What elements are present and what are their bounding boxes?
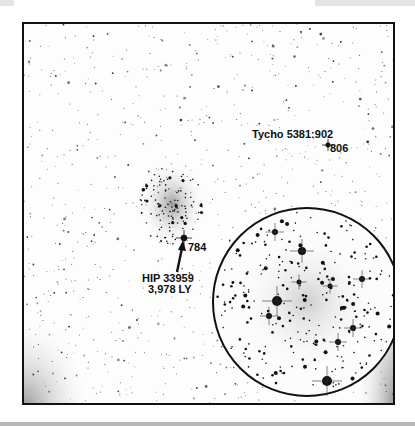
- tycho-magnitude-value: 806: [330, 142, 348, 154]
- page-header-right: [315, 0, 415, 6]
- page-header-left: [0, 0, 14, 6]
- star-field-canvas: [24, 24, 395, 405]
- inset-circle: [213, 208, 395, 396]
- vignette-left: [24, 314, 94, 405]
- page-footer-bar: [0, 422, 415, 426]
- hip-distance: 3,978 LY: [148, 283, 192, 295]
- cluster-star-value: 784: [188, 241, 206, 253]
- star-field-image: Tycho 5381:902 806 784 HIP 33959 3,978 L…: [22, 22, 395, 405]
- cluster-glow: [138, 160, 206, 248]
- tycho-label: Tycho 5381:902: [252, 128, 333, 140]
